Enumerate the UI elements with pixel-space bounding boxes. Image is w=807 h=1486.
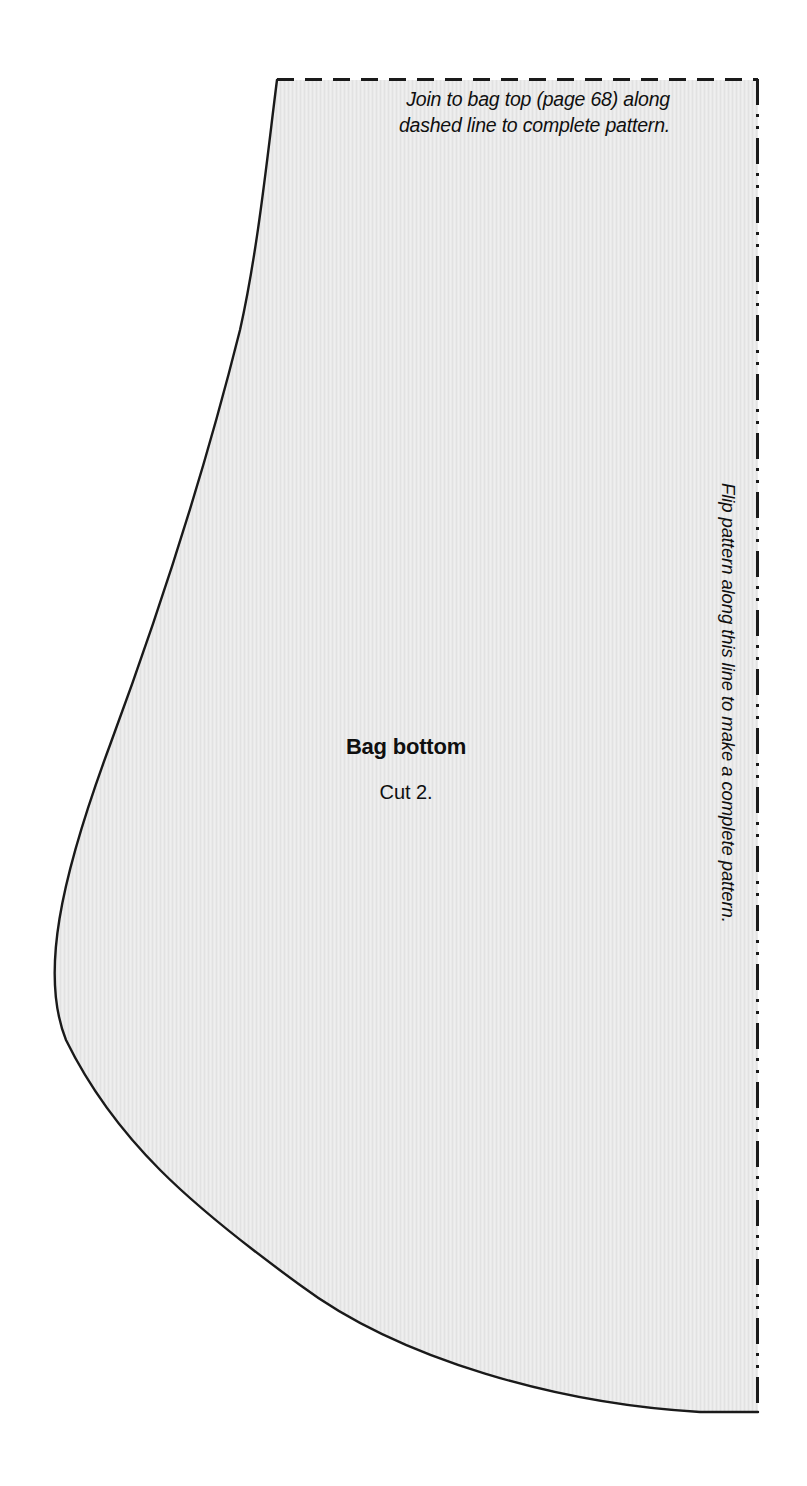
flip-instruction-note: Flip pattern along this line to make a c… [719,483,738,923]
pattern-sheet: Join to bag top (page 68) along dashed l… [0,0,807,1486]
join-instruction-note: Join to bag top (page 68) along dashed l… [330,86,670,138]
pattern-piece-name: Bag bottom [256,734,556,760]
pattern-piece-label: Bag bottom Cut 2. [256,716,556,823]
pattern-piece-cut-count: Cut 2. [256,780,556,805]
